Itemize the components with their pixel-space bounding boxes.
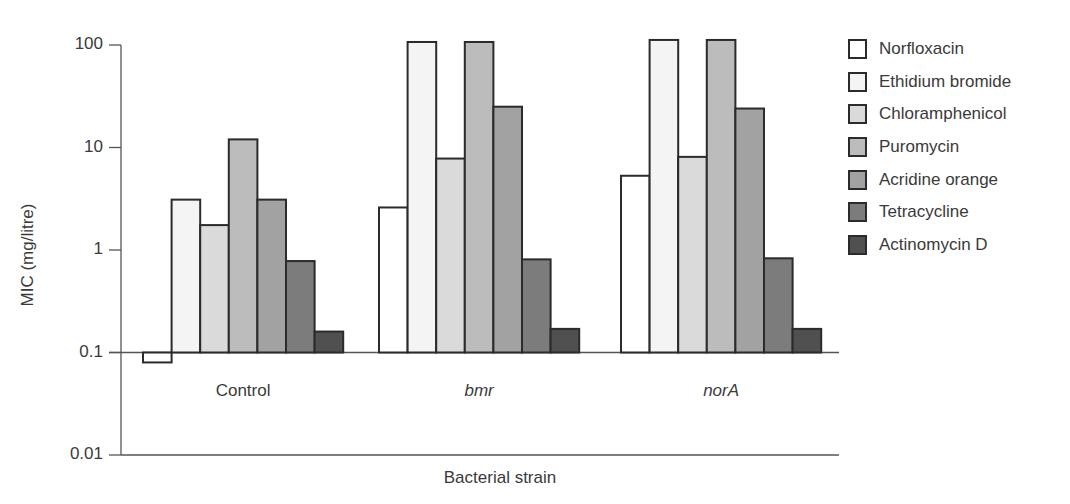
legend-item: Chloramphenicol: [848, 98, 1011, 131]
legend-swatch: [848, 235, 867, 255]
legend-item: Ethidium bromide: [848, 66, 1011, 99]
legend-swatch: [848, 170, 867, 190]
bar-acridine-orange: [257, 200, 286, 353]
y-tick-label: 0.01: [43, 444, 103, 464]
bar-norfloxacin: [621, 176, 650, 353]
y-tick-label: 1: [43, 239, 103, 259]
bar-actinomycin-d: [793, 329, 822, 353]
legend-label: Puromycin: [879, 137, 959, 157]
bar-norfloxacin: [143, 353, 172, 363]
y-tick-label: 10: [43, 137, 103, 157]
bar-puromycin: [465, 42, 494, 353]
bar-ethidium-bromide: [172, 200, 201, 353]
bar-puromycin: [707, 40, 736, 353]
legend-item: Norfloxacin: [848, 33, 1011, 66]
legend-label: Chloramphenicol: [879, 104, 1007, 124]
y-tick-label: 0.1: [43, 342, 103, 362]
bar-norfloxacin: [379, 207, 408, 352]
legend-swatch: [848, 137, 867, 157]
legend-item: Actinomycin D: [848, 229, 1011, 262]
legend-label: Norfloxacin: [879, 39, 964, 59]
bar-acridine-orange: [735, 109, 764, 353]
legend-item: Tetracycline: [848, 196, 1011, 229]
category-label: Control: [163, 381, 323, 401]
bar-chloramphenicol: [678, 157, 707, 353]
category-label: bmr: [399, 381, 559, 401]
legend-swatch: [848, 202, 867, 222]
bar-chloramphenicol: [436, 159, 465, 353]
x-axis-label: Bacterial strain: [420, 468, 580, 488]
category-label: norA: [641, 381, 801, 401]
y-tick-label: 100: [43, 34, 103, 54]
bar-acridine-orange: [493, 107, 522, 353]
bar-puromycin: [229, 139, 258, 352]
legend-label: Acridine orange: [879, 170, 998, 190]
bar-tetracycline: [522, 259, 551, 352]
legend-item: Puromycin: [848, 131, 1011, 164]
legend-label: Actinomycin D: [879, 235, 988, 255]
bar-tetracycline: [764, 258, 793, 352]
bar-actinomycin-d: [315, 332, 344, 353]
bar-ethidium-bromide: [650, 40, 679, 353]
legend: NorfloxacinEthidium bromideChloramphenic…: [848, 33, 1011, 261]
legend-swatch: [848, 104, 867, 124]
bar-tetracycline: [286, 261, 315, 352]
bar-ethidium-bromide: [408, 42, 437, 353]
bar-chloramphenicol: [200, 225, 229, 352]
legend-label: Ethidium bromide: [879, 72, 1011, 92]
bar-actinomycin-d: [551, 329, 580, 353]
legend-label: Tetracycline: [879, 202, 969, 222]
y-axis-label: MIC (mg/litre): [18, 204, 38, 307]
legend-item: Acridine orange: [848, 163, 1011, 196]
legend-swatch: [848, 39, 867, 59]
legend-swatch: [848, 72, 867, 92]
